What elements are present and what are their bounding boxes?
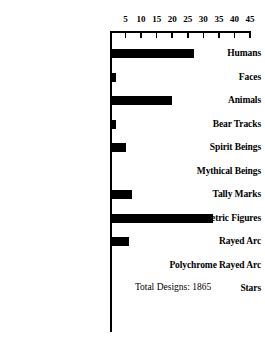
x-tick-mark	[171, 31, 173, 38]
bar	[110, 49, 194, 58]
category-label: Bear Tracks	[158, 113, 265, 135]
chart-row: Animals	[0, 89, 265, 111]
x-tick-label: 40	[230, 14, 239, 24]
category-label: Faces	[158, 66, 265, 88]
x-tick-label: 10	[137, 14, 146, 24]
chart-row: Faces	[0, 66, 265, 88]
chart-row: Rayed Arc	[0, 230, 265, 252]
x-tick-label: 25	[183, 14, 192, 24]
x-tick-mark	[187, 31, 189, 38]
chart-row: Spirit Beings	[0, 136, 265, 158]
category-label: Spirit Beings	[158, 136, 265, 158]
x-tick-mark	[218, 31, 220, 38]
chart-row: Bear Tracks	[0, 113, 265, 135]
chart-row: Tally Marks	[0, 183, 265, 205]
x-tick-label: 5	[123, 14, 128, 24]
total-designs-annotation: Total Designs: 1865	[135, 282, 211, 292]
x-tick-mark	[234, 31, 236, 38]
chart-rows: HumansFacesAnimalsBear TracksSpirit Bein…	[0, 42, 265, 301]
x-tick-mark	[203, 31, 205, 38]
x-tick-mark	[156, 31, 158, 38]
category-label: Polychrome Rayed Arc	[158, 254, 265, 276]
chart-row: Mythical Beings	[0, 160, 265, 182]
x-tick-mark	[249, 31, 251, 38]
bar	[110, 237, 129, 246]
x-axis-tick-labels: 51015202530354045	[0, 0, 265, 28]
x-tick-mark	[125, 31, 127, 38]
x-tick-label: 30	[199, 14, 208, 24]
x-tick-label: 35	[214, 14, 223, 24]
bar	[110, 190, 132, 199]
bar	[110, 96, 172, 105]
bar	[110, 73, 116, 82]
x-axis-line	[110, 31, 250, 33]
chart-row: Polychrome Rayed Arc	[0, 254, 265, 276]
bar	[110, 120, 116, 129]
bar	[110, 143, 126, 152]
bar	[110, 214, 213, 223]
category-label: Tally Marks	[158, 183, 265, 205]
chart-row: Stars	[0, 277, 265, 299]
category-label: Rayed Arc	[158, 230, 265, 252]
x-tick-label: 45	[246, 14, 255, 24]
category-label: Mythical Beings	[158, 160, 265, 182]
category-label: Animals	[158, 89, 265, 111]
chart-row: Geometric Figures	[0, 207, 265, 229]
x-tick-mark	[140, 31, 142, 38]
chart-row: Humans	[0, 42, 265, 64]
bar-chart: 51015202530354045 HumansFacesAnimalsBear…	[0, 0, 265, 344]
x-tick-label: 20	[168, 14, 177, 24]
x-tick-label: 15	[152, 14, 161, 24]
